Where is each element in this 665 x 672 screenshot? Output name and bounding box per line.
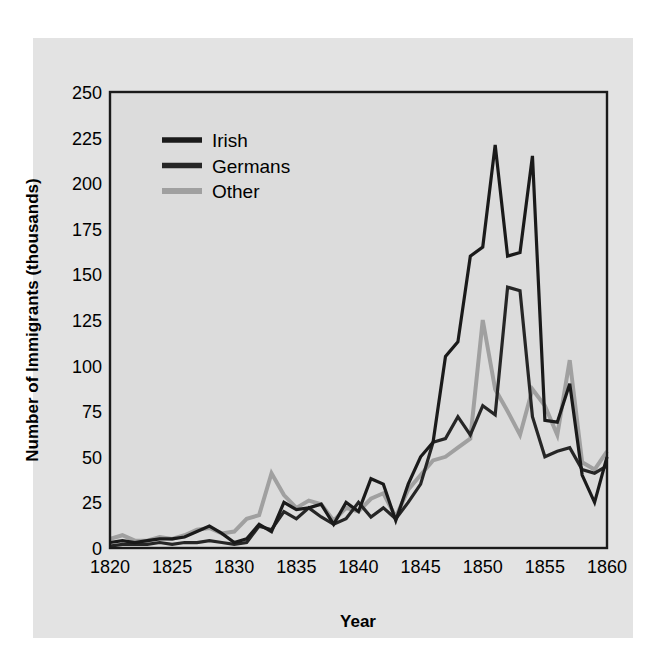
immigration-line-chart: 182018251830183518401845185018551860 025… <box>0 0 665 672</box>
y-tick-label: 0 <box>92 539 102 559</box>
y-tick-label: 100 <box>72 357 102 377</box>
chart-canvas: 182018251830183518401845185018551860 025… <box>0 0 665 672</box>
y-tick-label: 200 <box>72 174 102 194</box>
y-axis-title: Number of Immigrants (thousands) <box>23 178 42 461</box>
x-tick-label: 1825 <box>152 557 192 577</box>
x-tick-label: 1845 <box>401 557 441 577</box>
legend-label-irish: Irish <box>212 130 248 151</box>
y-tick-label: 75 <box>82 402 102 422</box>
x-tick-labels: 182018251830183518401845185018551860 <box>90 557 627 577</box>
x-tick-label: 1820 <box>90 557 130 577</box>
legend-label-other: Other <box>212 181 260 202</box>
chart-page: 182018251830183518401845185018551860 025… <box>0 0 665 672</box>
y-tick-label: 250 <box>72 83 102 103</box>
y-tick-label: 25 <box>82 493 102 513</box>
x-axis-title: Year <box>340 612 376 631</box>
y-tick-label: 175 <box>72 220 102 240</box>
y-tick-label: 225 <box>72 129 102 149</box>
y-tick-label: 125 <box>72 311 102 331</box>
y-tick-label: 150 <box>72 265 102 285</box>
legend-label-germans: Germans <box>212 156 290 177</box>
y-tick-label: 50 <box>82 448 102 468</box>
x-tick-label: 1850 <box>463 557 503 577</box>
y-tick-labels: 0255075100125150175200225250 <box>72 83 102 559</box>
x-tick-label: 1855 <box>525 557 565 577</box>
x-tick-label: 1840 <box>338 557 378 577</box>
x-tick-label: 1830 <box>214 557 254 577</box>
x-tick-label: 1860 <box>587 557 627 577</box>
x-tick-label: 1835 <box>276 557 316 577</box>
